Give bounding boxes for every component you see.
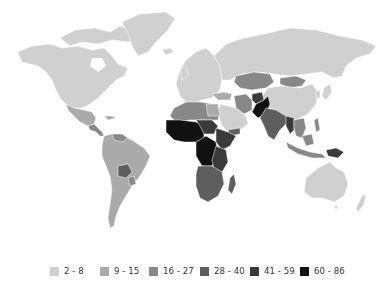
legend-swatch: [100, 267, 109, 276]
region-iceland: [162, 48, 174, 55]
region-australia: [304, 162, 348, 202]
region-madagascar: [228, 174, 236, 194]
legend-item-2-8: 2 - 8: [50, 264, 84, 278]
legend-item-9-15: 9 - 15: [100, 264, 139, 278]
region-borneo: [302, 134, 314, 146]
map-legend: 2 - 8 9 - 15 16 - 27 28 - 40 41 - 59 60 …: [0, 262, 389, 282]
legend-label: 2 - 8: [64, 266, 84, 276]
legend-label: 9 - 15: [114, 266, 139, 276]
legend-swatch: [300, 267, 309, 276]
region-tasmania: [334, 206, 338, 210]
legend-item-41-59: 41 - 59: [250, 264, 295, 278]
region-japan: [322, 84, 332, 100]
region-south-america: [102, 134, 150, 228]
region-north-america: [18, 44, 128, 108]
region-philippines: [314, 118, 320, 132]
region-myanmar: [286, 116, 294, 134]
legend-swatch: [200, 267, 209, 276]
legend-item-28-40: 28 - 40: [200, 264, 245, 278]
map-canvas: [0, 0, 389, 250]
region-papua-new-guinea: [326, 148, 344, 158]
region-central-america: [88, 124, 104, 136]
legend-swatch: [50, 267, 59, 276]
legend-swatch: [250, 267, 259, 276]
region-caribbean: [104, 116, 116, 120]
world-map: [0, 0, 389, 250]
legend-label: 16 - 27: [163, 266, 194, 276]
legend-item-60-86: 60 - 86: [300, 264, 345, 278]
region-egypt: [206, 104, 220, 116]
region-southern-africa: [196, 166, 224, 202]
legend-label: 28 - 40: [214, 266, 245, 276]
region-new-zealand: [356, 194, 366, 212]
region-southeast-asia: [294, 118, 306, 138]
legend-label: 41 - 59: [264, 266, 295, 276]
legend-swatch: [149, 267, 158, 276]
legend-label: 60 - 86: [314, 266, 345, 276]
legend-item-16-27: 16 - 27: [149, 264, 194, 278]
region-russia: [214, 28, 376, 80]
